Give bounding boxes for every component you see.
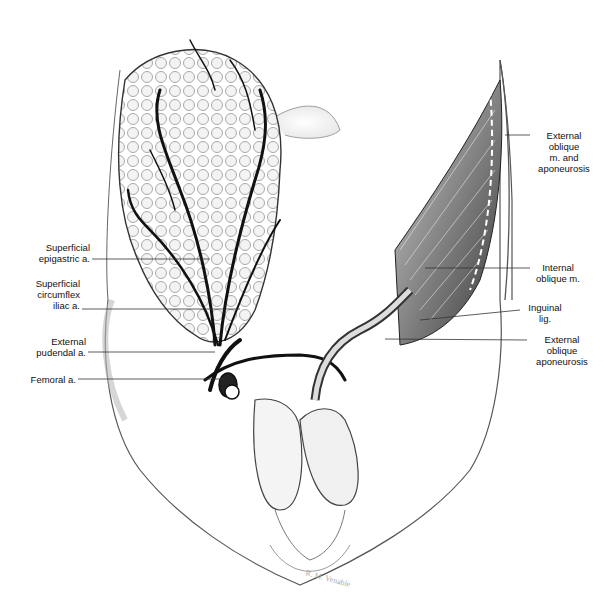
label-line: oblique [528,141,600,152]
label-inguinal-lig: Inguinal lig. [520,302,570,324]
label-line: oblique [526,345,598,356]
label-external-oblique-m: External oblique m. and aponeurosis [528,130,600,174]
label-internal-oblique: Internal oblique m. [528,262,588,284]
label-line: External [528,130,600,141]
artist-signature: R. M. Venable [304,568,351,589]
label-line: m. and [528,152,600,163]
label-line: circumflex [20,289,80,300]
label-line: epigastric a. [20,253,90,264]
label-line: oblique m. [528,273,588,284]
label-line: External [526,334,598,345]
label-line: pudendal a. [20,347,86,358]
external-oblique-muscle [315,80,502,400]
label-superficial-circumflex-iliac: Superficial circumflex iliac a. [20,278,80,311]
anatomical-figure: R. M. Venable Superficial epigastric a. … [0,0,614,603]
label-line: iliac a. [20,300,80,311]
label-superficial-epigastric: Superficial epigastric a. [20,242,90,264]
label-line: aponeurosis [528,163,600,174]
label-line: Superficial [20,278,80,289]
label-line: Superficial [20,242,90,253]
label-line: Inguinal [520,302,570,313]
label-line: External [20,336,86,347]
label-line: lig. [520,313,570,324]
scrotum [254,399,358,571]
label-external-pudendal: External pudendal a. [20,336,86,358]
label-femoral: Femoral a. [20,374,76,385]
label-line: Internal [528,262,588,273]
label-line: aponeurosis [526,356,598,367]
label-line: Femoral a. [20,374,76,385]
label-external-oblique-aponeurosis: External oblique aponeurosis [526,334,598,367]
